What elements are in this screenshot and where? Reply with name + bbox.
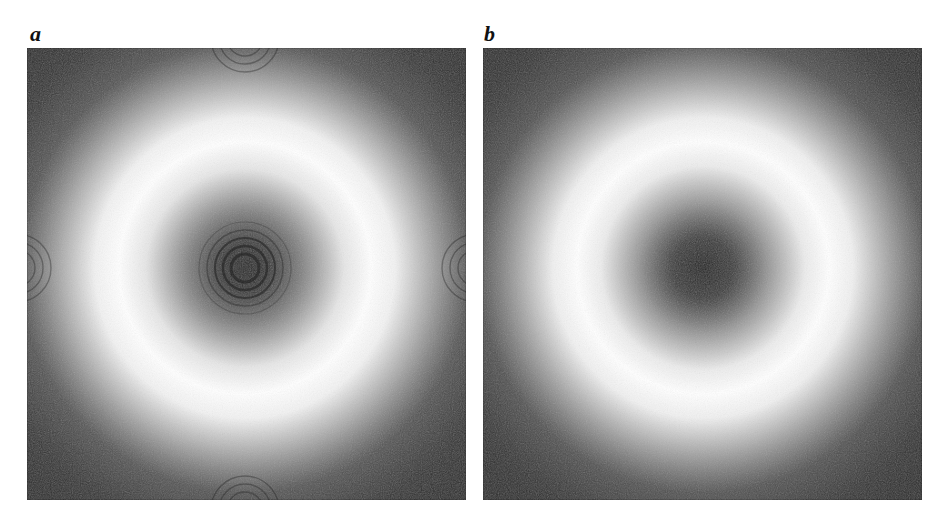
panel-a-image — [27, 48, 466, 500]
panel-label-a: a — [30, 23, 41, 45]
panel-label-b: b — [484, 23, 495, 45]
panel-b-image — [483, 48, 922, 500]
